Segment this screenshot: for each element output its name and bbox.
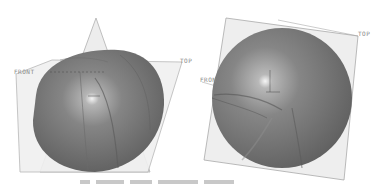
figure-caption-cropped (80, 180, 300, 186)
right-model-view: FRON TOP (192, 0, 384, 188)
left-model-view: FRONT TOP (0, 0, 192, 188)
front-plane-label: FRONT (14, 68, 35, 75)
top-plane-label: TOP (180, 57, 192, 64)
left-model-drawing (0, 0, 192, 188)
sphere-surface (212, 28, 352, 168)
right-model-drawing (192, 0, 384, 188)
front-plane-label: FRON (200, 76, 216, 83)
top-plane-label: TOP (358, 30, 370, 37)
